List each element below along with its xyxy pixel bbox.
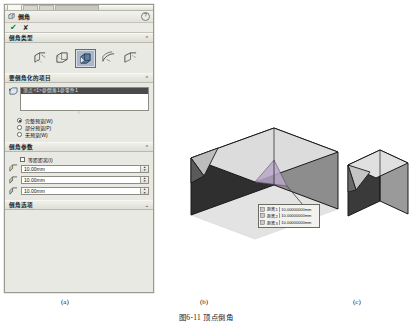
angle-distance-icon[interactable] [31, 49, 50, 66]
section-label-chamfer-options: 倒角选项 [9, 201, 33, 209]
section-body-chamfer-parameters: 等距距离(I) 10.00mm ▲ ▼ [5, 152, 153, 200]
radio-label: 部分预览(P) [25, 124, 52, 131]
section-body-chamfer-type [5, 43, 153, 73]
distance3-stepper[interactable]: 10.00mm ▲ ▼ [21, 187, 149, 195]
distance2-row: 10.00mm ▲ ▼ [9, 174, 149, 185]
chevron-down-icon[interactable]: ⌄ [145, 202, 149, 208]
accept-button[interactable]: ✔ [10, 24, 17, 32]
subfigure-label-a: (a) [61, 298, 69, 306]
subfigure-caption-row: (a) (b) (c) [0, 298, 412, 310]
selection-listbox[interactable]: 顶点<1>@倒角1@零件1 [20, 87, 149, 111]
distance3-icon [9, 187, 18, 196]
callout-value[interactable]: 10.00000000mm [281, 213, 311, 218]
section-label-chamfer-type: 倒角类型 [9, 34, 33, 42]
checkbox-label: 等距距离(I) [28, 156, 53, 163]
list-item[interactable]: 顶点<1>@倒角1@零件1 [21, 88, 148, 94]
callout-value[interactable]: 10.00000000mm [281, 207, 311, 212]
distance1-icon [260, 207, 265, 212]
callout-label: 距离 3 [267, 220, 278, 226]
model-c-result-block [348, 150, 408, 216]
checkbox-indicator[interactable] [20, 157, 25, 162]
distance-distance-icon[interactable] [53, 49, 72, 66]
distance1-row: 10.00mm ▲ ▼ [9, 163, 149, 174]
distance1-icon [9, 164, 18, 173]
radio-label: 无预览(W) [25, 131, 48, 138]
distance2-icon [260, 213, 265, 218]
subfigure-label-c: (c) [353, 298, 361, 306]
radio-indicator[interactable] [17, 125, 22, 130]
section-header-chamfer-type[interactable]: 倒角类型 ⌃ [5, 33, 153, 43]
property-manager-panel: 倒角 ? ✔ ✘ 倒角类型 ⌃ [4, 4, 154, 293]
chevron-up-icon[interactable]: ⌃ [145, 144, 149, 150]
distance3-value[interactable]: 10.00mm [22, 188, 140, 194]
radio-partial-preview[interactable]: 部分预览(P) [17, 124, 149, 131]
section-header-chamfer-parameters[interactable]: 倒角参数 ⌃ [5, 142, 153, 152]
distance2-icon [9, 176, 18, 185]
vertex-chamfer-icon[interactable] [75, 49, 96, 68]
confirm-toolbar: ✔ ✘ [5, 23, 153, 33]
face-face-icon[interactable] [121, 49, 140, 66]
stepper-buttons[interactable]: ▲ ▼ [140, 177, 148, 183]
callout-value[interactable]: 10.00000000mm [281, 220, 311, 225]
subfigure-label-b: (b) [200, 298, 208, 306]
distance3-row: 10.00mm ▲ ▼ [9, 186, 149, 197]
distance1-stepper[interactable]: 10.00mm ▲ ▼ [21, 165, 149, 173]
divider [279, 213, 280, 218]
distance2-stepper[interactable]: 10.00mm ▲ ▼ [21, 176, 149, 184]
callout-label: 距离 2 [267, 213, 278, 219]
tab-configuration-manager[interactable] [39, 5, 54, 11]
stepper-buttons[interactable]: ▲ ▼ [140, 188, 148, 194]
tab-overflow-strip[interactable] [55, 5, 99, 11]
distance2-value[interactable]: 10.00mm [22, 177, 140, 183]
distance3-icon [260, 220, 265, 225]
radio-indicator[interactable] [17, 118, 22, 123]
radio-indicator[interactable] [17, 132, 22, 137]
vertex-pick-icon [9, 87, 18, 96]
radio-label: 完整预览(W) [25, 117, 53, 124]
tab-feature-manager[interactable] [7, 4, 22, 11]
chevron-up-icon[interactable]: ⌃ [145, 35, 149, 41]
divider [279, 220, 280, 225]
distance1-value[interactable]: 10.00mm [22, 166, 140, 172]
stepper-buttons[interactable]: ▲ ▼ [140, 166, 148, 172]
section-header-chamfer-options[interactable]: 倒角选项 ⌄ [5, 200, 153, 210]
dimension-callout: 距离 1 10.00000000mm 距离 2 10.00000000mm 距离… [258, 204, 320, 228]
page-title: 倒角 [18, 12, 30, 21]
preview-option-group: 完整预览(W) 部分预览(P) 无预览(W) [9, 115, 149, 139]
tab-property-manager[interactable] [23, 5, 38, 11]
stepper-down-icon[interactable]: ▼ [141, 169, 148, 172]
section-label-chamfer-parameters: 倒角参数 [9, 143, 33, 151]
cancel-button[interactable]: ✘ [23, 24, 29, 32]
offset-face-icon[interactable] [99, 49, 118, 66]
panel-title-bar: 倒角 ? [5, 11, 153, 23]
selection-row: 顶点<1>@倒角1@零件1 [9, 86, 149, 111]
section-label-chamfer-items: 要倒角化的项目 [9, 74, 51, 82]
figure-caption: 图6-11 顶点倒角 [0, 311, 412, 322]
checkbox-equal-distance[interactable]: 等距距离(I) [9, 155, 149, 163]
callout-row: 距离 2 10.00000000mm [260, 213, 318, 219]
chevron-up-icon[interactable]: ⌃ [145, 75, 149, 81]
chamfer-type-grid [9, 46, 149, 70]
callout-row: 距离 1 10.00000000mm [260, 206, 318, 212]
section-body-chamfer-items: 顶点<1>@倒角1@零件1 ⁘ 完整预览(W) 部分预览(P) 无预览(W) [5, 83, 153, 142]
stepper-down-icon[interactable]: ▼ [141, 180, 148, 183]
divider [279, 207, 280, 212]
chamfer-icon [8, 13, 15, 21]
radio-full-preview[interactable]: 完整预览(W) [17, 117, 149, 124]
radio-no-preview[interactable]: 无预览(W) [17, 131, 149, 138]
section-header-chamfer-items[interactable]: 要倒角化的项目 ⌃ [5, 73, 153, 83]
callout-row: 距离 3 10.00000000mm [260, 220, 318, 226]
callout-label: 距离 1 [267, 206, 278, 212]
model-viewport [156, 0, 412, 295]
stepper-down-icon[interactable]: ▼ [141, 192, 148, 195]
help-icon[interactable]: ? [141, 12, 150, 21]
